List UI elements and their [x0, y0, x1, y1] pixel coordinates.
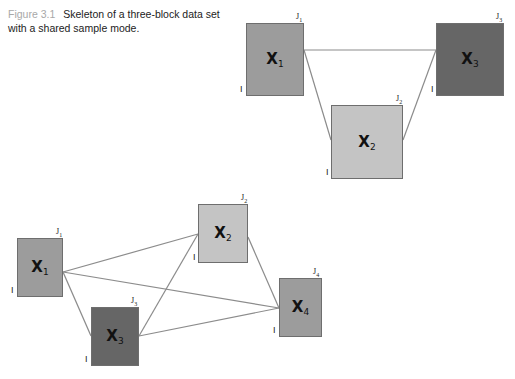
bottom-block-x2: X2 [198, 204, 248, 263]
link-top-x2-x3 [403, 50, 436, 140]
bottom-block-x4: X4 [279, 278, 322, 337]
block-label: X1 [31, 258, 48, 277]
bottom-x2-row-dim: I [193, 252, 196, 262]
link-bottom-x1-x3 [63, 272, 91, 336]
bottom-x3-col-dim: J3 [131, 296, 137, 307]
link-bottom-x3-x4 [139, 308, 279, 336]
bottom-x3-row-dim: I [85, 354, 88, 364]
bottom-x1-row-dim: I [11, 285, 14, 295]
link-top-x1-x2 [304, 50, 331, 140]
link-bottom-x3-x2 [139, 234, 198, 336]
top-x1-col-dim: J1 [296, 12, 302, 23]
top-x2-col-dim: J2 [396, 94, 402, 105]
top-block-x3: X3 [436, 23, 504, 96]
top-block-x1: X1 [246, 23, 304, 96]
block-label: X3 [106, 327, 123, 346]
block-label: X3 [461, 50, 478, 69]
bottom-x4-col-dim: J4 [313, 267, 319, 278]
block-label: X2 [214, 224, 231, 243]
block-label: X4 [292, 298, 309, 317]
bottom-x4-row-dim: I [273, 325, 276, 335]
bottom-block-x1: X1 [17, 238, 63, 297]
top-block-x2: X2 [331, 105, 403, 179]
block-label: X1 [266, 50, 283, 69]
top-x3-col-dim: J3 [496, 12, 502, 23]
top-x2-row-dim: I [326, 167, 329, 177]
link-bottom-x1-x4 [63, 272, 279, 308]
block-label: X2 [358, 133, 375, 152]
bottom-block-x3: X3 [91, 307, 139, 366]
bottom-x2-col-dim: J2 [241, 193, 247, 204]
link-bottom-x2-x4 [248, 237, 279, 308]
top-x1-row-dim: I [240, 84, 243, 94]
top-x3-row-dim: I [431, 84, 434, 94]
bottom-x1-col-dim: J1 [56, 227, 62, 238]
link-bottom-x1-x2 [63, 234, 198, 272]
